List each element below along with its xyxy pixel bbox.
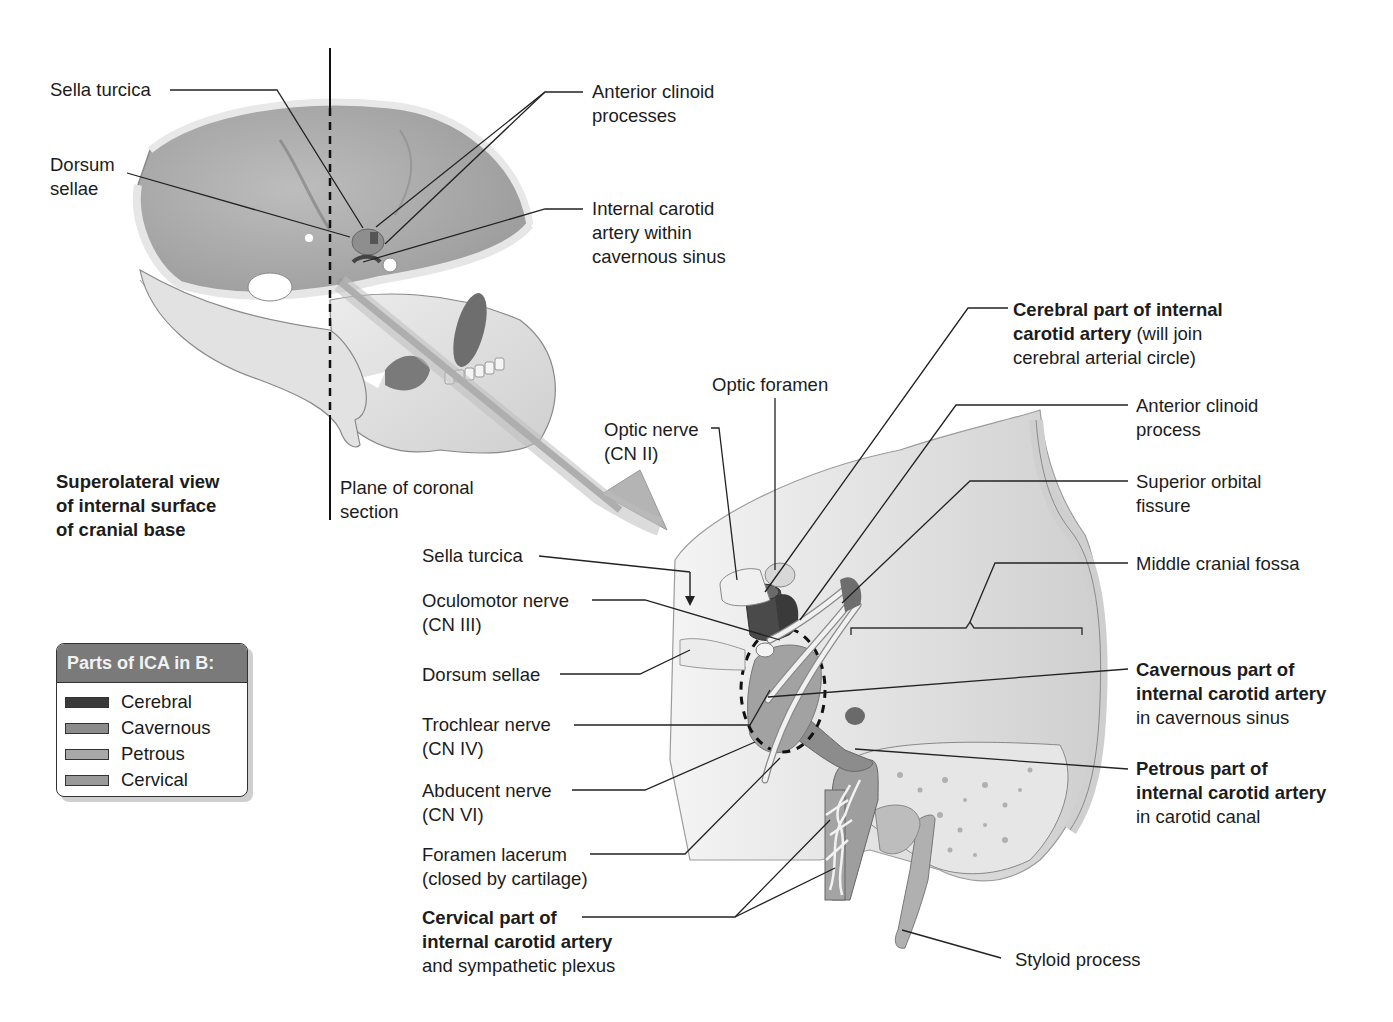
label-line: Anterior clinoid — [592, 80, 714, 104]
label-anterior-clinoid-processes: Anterior clinoid processes — [592, 80, 714, 128]
caption-line: Superolateral view — [56, 470, 219, 494]
label-line: (CN VI) — [422, 803, 552, 827]
label-cerebral-part-ica: Cerebral part of internal carotid artery… — [1013, 298, 1223, 370]
label-cavernous-part-ica: Cavernous part of internal carotid arter… — [1136, 658, 1326, 730]
label-line: (CN IV) — [422, 737, 551, 761]
label-line: section — [340, 500, 474, 524]
label-line: Oculomotor nerve — [422, 589, 569, 613]
label-line: Cerebral part of internal — [1013, 298, 1223, 322]
label-line: process — [1136, 418, 1258, 442]
label-line: Dorsum — [50, 153, 115, 177]
label-line: Foramen lacerum — [422, 843, 588, 867]
legend-title: Parts of ICA in B: — [57, 644, 247, 683]
label-line: Anterior clinoid — [1136, 394, 1258, 418]
label-optic-foramen: Optic foramen — [712, 373, 828, 397]
legend-swatch — [65, 775, 109, 786]
legend-label: Cavernous — [121, 717, 210, 739]
label-line: Internal carotid — [592, 197, 726, 221]
legend-item-petrous: Petrous — [57, 741, 247, 767]
label-dorsum-sellae-b: Dorsum sellae — [422, 663, 540, 687]
label-abducent-nerve: Abducent nerve (CN VI) — [422, 779, 552, 827]
legend-label: Cerebral — [121, 691, 192, 713]
label-line: cavernous sinus — [592, 245, 726, 269]
label-superior-orbital-fissure: Superior orbital fissure — [1136, 470, 1261, 518]
label-line: (CN III) — [422, 613, 569, 637]
legend-swatch — [65, 697, 109, 708]
label-line: cerebral arterial circle) — [1013, 346, 1223, 370]
legend-item-cerebral: Cerebral — [57, 689, 247, 715]
label-anterior-clinoid-process: Anterior clinoid process — [1136, 394, 1258, 442]
label-line: internal carotid artery — [422, 930, 615, 954]
label-line: internal carotid artery — [1136, 781, 1326, 805]
label-petrous-part-ica: Petrous part of internal carotid artery … — [1136, 757, 1326, 829]
label-sella-turcica-a: Sella turcica — [50, 78, 151, 102]
panel-a-caption: Superolateral view of internal surface o… — [56, 470, 219, 542]
label-line: (CN II) — [604, 442, 699, 466]
ica-parts-legend: Parts of ICA in B: Cerebral Cavernous Pe… — [56, 643, 248, 797]
label-line: internal carotid artery — [1136, 682, 1326, 706]
label-line: fissure — [1136, 494, 1261, 518]
label-line: Abducent nerve — [422, 779, 552, 803]
coronal-section-drawing — [670, 410, 1102, 948]
label-middle-cranial-fossa: Middle cranial fossa — [1136, 552, 1300, 576]
legend-swatch — [65, 749, 109, 760]
label-line: sellae — [50, 177, 115, 201]
label-optic-nerve: Optic nerve (CN II) — [604, 418, 699, 466]
label-trochlear-nerve: Trochlear nerve (CN IV) — [422, 713, 551, 761]
label-line: (closed by cartilage) — [422, 867, 588, 891]
label-line: Trochlear nerve — [422, 713, 551, 737]
label-normal: (will join — [1131, 323, 1202, 344]
label-line: Plane of coronal — [340, 476, 474, 500]
skull-drawing — [137, 48, 667, 530]
label-line: Petrous part of — [1136, 757, 1326, 781]
label-foramen-lacerum: Foramen lacerum (closed by cartilage) — [422, 843, 588, 891]
label-dorsum-sellae-a: Dorsum sellae — [50, 153, 115, 201]
label-plane-of-coronal-section: Plane of coronal section — [340, 476, 474, 524]
label-line: artery within — [592, 221, 726, 245]
label-line: Superior orbital — [1136, 470, 1261, 494]
legend-item-cavernous: Cavernous — [57, 715, 247, 741]
legend-label: Petrous — [121, 743, 185, 765]
legend-swatch — [65, 723, 109, 734]
label-oculomotor-nerve: Oculomotor nerve (CN III) — [422, 589, 569, 637]
label-ica-within-cavernous-sinus: Internal carotid artery within cavernous… — [592, 197, 726, 269]
label-styloid-process: Styloid process — [1015, 948, 1140, 972]
label-line: Cavernous part of — [1136, 658, 1326, 682]
legend-item-cervical: Cervical — [57, 767, 247, 793]
legend-label: Cervical — [121, 769, 188, 791]
caption-line: of cranial base — [56, 518, 219, 542]
caption-line: of internal surface — [56, 494, 219, 518]
label-bold: carotid artery — [1013, 323, 1131, 344]
label-line: processes — [592, 104, 714, 128]
label-line: and sympathetic plexus — [422, 954, 615, 978]
label-cervical-part-ica: Cervical part of internal carotid artery… — [422, 906, 615, 978]
label-line: Cervical part of — [422, 906, 615, 930]
label-line: in cavernous sinus — [1136, 706, 1326, 730]
label-sella-turcica-b: Sella turcica — [422, 544, 523, 568]
label-line: Optic nerve — [604, 418, 699, 442]
label-line: in carotid canal — [1136, 805, 1326, 829]
